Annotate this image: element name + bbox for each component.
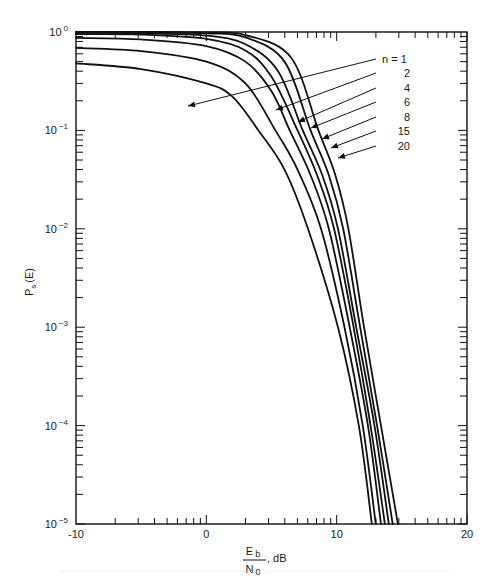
x-tick-label: 0 (203, 528, 209, 540)
svg-text:Eb: Eb (246, 545, 260, 559)
y-label-tail: (E) (23, 268, 35, 283)
figure-caption-faint (60, 571, 450, 573)
legend-arrow-line (188, 59, 376, 106)
legend-label: 4 (404, 82, 410, 94)
svg-text:Ps(E): Ps(E) (23, 268, 38, 296)
y-tick-label: 100 (49, 24, 68, 38)
legend-arrowhead-icon (338, 153, 346, 159)
chart: -100102010010−110−210−310−410−5 n = 1246… (0, 0, 496, 588)
x-tick-label: -10 (68, 528, 84, 540)
x-label-num-sub: b (255, 549, 260, 559)
curve-n6 (76, 34, 385, 524)
legend-arrowhead-icon (188, 101, 196, 107)
x-label-num: E (246, 545, 253, 557)
legend-annotations: n = 124681520 (188, 53, 410, 159)
legend-label: 8 (404, 111, 410, 123)
y-axis-label: Ps(E) (23, 268, 38, 296)
curve-n2 (76, 48, 376, 524)
legend-arrowhead-icon (322, 134, 330, 140)
y-tick-label: 10−3 (45, 319, 69, 333)
y-label-sub: s (29, 285, 38, 289)
legend-arrow-line (276, 73, 376, 110)
legend-label: n = 1 (382, 53, 407, 65)
series-curves (76, 32, 398, 524)
x-tick-label: 20 (461, 528, 473, 540)
legend-arrowhead-icon (311, 123, 319, 129)
svg-text:N0: N0 (246, 563, 261, 577)
legend-label: 6 (404, 96, 410, 108)
y-label-main: P (23, 289, 35, 296)
y-tick-label: 10−2 (45, 221, 69, 235)
y-tick-label: 10−5 (45, 516, 69, 530)
legend-arrow-line (331, 131, 376, 148)
legend-label: 20 (398, 140, 410, 152)
y-tick-label: 10−1 (45, 122, 69, 136)
legend-arrowhead-icon (331, 143, 339, 149)
x-tick-label: 10 (331, 528, 343, 540)
legend-label: 15 (398, 125, 410, 137)
curve-n1 (76, 63, 372, 524)
x-label-unit: , dB (267, 552, 287, 564)
x-label-den: N (246, 563, 254, 575)
y-tick-label: 10−4 (45, 418, 69, 432)
legend-label: 2 (404, 67, 410, 79)
curve-n8 (76, 33, 389, 524)
legend-arrow-line (311, 102, 376, 128)
curve-n20 (76, 32, 398, 524)
